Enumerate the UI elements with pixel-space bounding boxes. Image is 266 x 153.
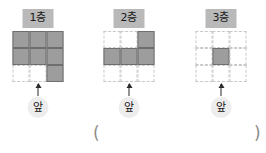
grid-cell — [30, 48, 47, 65]
floor-grid-3 — [196, 31, 247, 82]
grid-cell — [195, 48, 212, 65]
front-indicator-1: 앞 — [21, 84, 55, 118]
answer-open-paren: ( — [93, 121, 100, 145]
grid-cell — [138, 31, 155, 48]
grid-cell — [120, 31, 137, 48]
floor-label-3: 3층 — [206, 9, 237, 28]
grid-cell — [195, 65, 212, 82]
front-label-2: 앞 — [119, 97, 140, 118]
grid-cell — [138, 48, 155, 65]
grid-cell — [47, 48, 64, 65]
grid-cell — [103, 31, 120, 48]
grid-cell — [30, 31, 47, 48]
grid-cell — [13, 31, 30, 48]
arrow-up-icon — [38, 84, 39, 96]
grid-cell — [29, 65, 46, 82]
grid-cell — [47, 65, 64, 82]
worksheet: 1층 앞 2층 — [0, 0, 266, 153]
front-label-1: 앞 — [28, 97, 49, 118]
front-indicator-3: 앞 — [204, 84, 238, 118]
grid-cell — [12, 65, 29, 82]
grid-cell — [47, 31, 64, 48]
floor-panel-2: 2층 앞 — [85, 6, 173, 118]
grid-cell — [137, 65, 154, 82]
floor-label-2: 2층 — [114, 9, 145, 28]
grid-cell — [121, 48, 138, 65]
front-label-3: 앞 — [211, 97, 232, 118]
grid-cell — [229, 48, 246, 65]
arrow-up-icon — [129, 84, 130, 96]
front-indicator-2: 앞 — [112, 84, 146, 118]
floor-grid-1 — [13, 31, 64, 82]
floor-grid-2 — [104, 31, 155, 82]
arrow-up-icon — [221, 84, 222, 96]
grid-cell — [195, 31, 212, 48]
grid-cell — [229, 31, 246, 48]
answer-blank[interactable]: ( ) — [0, 121, 266, 151]
floor-label-1: 1층 — [23, 9, 54, 28]
grid-cell — [212, 31, 229, 48]
floor-panel-1: 1층 앞 — [0, 6, 82, 118]
grid-cell — [104, 48, 121, 65]
grid-cell — [120, 65, 137, 82]
floor-panel-3: 3층 앞 — [177, 6, 265, 118]
grid-cell — [103, 65, 120, 82]
grid-cell — [13, 48, 30, 65]
floor-plan-panels: 1층 앞 2층 — [0, 6, 266, 118]
grid-cell — [212, 65, 229, 82]
grid-cell — [213, 48, 230, 65]
grid-cell — [229, 65, 246, 82]
answer-close-paren: ) — [254, 121, 261, 145]
